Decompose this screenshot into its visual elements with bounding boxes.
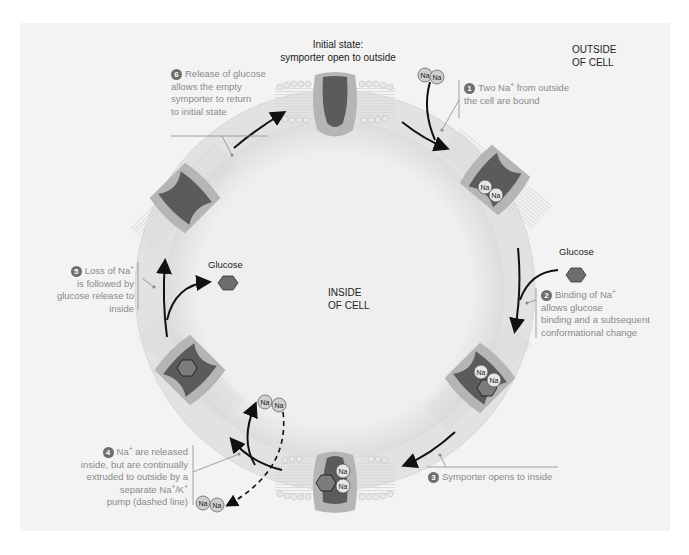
svg-text:Na: Na	[261, 399, 270, 406]
initial-state-label: Initial state:symporter open to outside	[270, 39, 406, 64]
svg-text:Na: Na	[339, 468, 348, 475]
step-5-label: 5Loss of Na+ is followed by glucose rele…	[40, 265, 134, 315]
step-4-label: 4Na+ are released inside, but are contin…	[55, 446, 188, 509]
step-3-label: 3Symporter opens to inside	[428, 471, 588, 484]
step-number-badge: 1	[464, 83, 475, 94]
sodium-ions-outside: Na Na	[418, 68, 444, 84]
svg-text:Na: Na	[339, 483, 348, 490]
step-number-badge: 2	[541, 290, 552, 301]
glucose-label-inside: Glucose	[208, 259, 243, 272]
symporter-open-inside: Na Na	[275, 452, 395, 514]
svg-text:Na: Na	[199, 500, 208, 507]
svg-text:Na: Na	[213, 502, 222, 509]
step-number-badge: 6	[171, 69, 182, 80]
svg-text:Na: Na	[477, 369, 486, 376]
svg-text:Na: Na	[490, 377, 499, 384]
outside-of-cell-label: OUTSIDEOF CELL	[572, 44, 616, 69]
step-1-label: 1Two Na+ from outside the cell are bound	[464, 82, 604, 107]
step-number-badge: 4	[103, 447, 114, 458]
sodium-ions-extruded: Na Na	[196, 496, 224, 512]
svg-text:Na: Na	[275, 402, 284, 409]
svg-text:Na: Na	[433, 74, 442, 81]
step-number-badge: 5	[71, 266, 82, 277]
glucose-label-outside: Glucose	[559, 246, 594, 259]
glucose-molecule-outside	[566, 268, 586, 282]
svg-text:Na: Na	[421, 72, 430, 79]
step-6-label: 6Release of glucose allows the empty sym…	[171, 68, 281, 118]
step-number-badge: 3	[428, 472, 439, 483]
svg-text:Na: Na	[481, 184, 490, 191]
step-2-label: 2Binding of Na+ allows glucose binding a…	[541, 289, 681, 339]
svg-text:Na: Na	[492, 192, 501, 199]
inside-of-cell-label: INSIDEOF CELL	[328, 287, 370, 312]
